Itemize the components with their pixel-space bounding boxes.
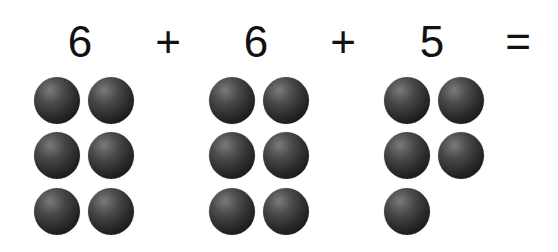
counting-ball [438, 77, 484, 124]
counting-ball [209, 77, 255, 124]
counting-ball [263, 188, 309, 235]
counting-ball [88, 132, 134, 179]
counting-ball [34, 77, 80, 124]
counting-ball [384, 188, 430, 235]
counting-ball [34, 188, 80, 235]
counting-ball [263, 77, 309, 124]
equals-sign: = [488, 16, 548, 68]
number-six: 6 [226, 16, 286, 68]
counting-ball [34, 132, 80, 179]
number-five: 5 [402, 16, 462, 68]
counting-ball [384, 77, 430, 124]
counting-ball [263, 132, 309, 179]
number-six: 6 [50, 16, 110, 68]
counting-ball [88, 77, 134, 124]
counting-ball [384, 132, 430, 179]
plus-sign: + [313, 16, 373, 68]
counting-ball [209, 132, 255, 179]
plus-sign: + [138, 16, 198, 68]
counting-ball [209, 188, 255, 235]
counting-ball [88, 188, 134, 235]
counting-ball [438, 132, 484, 179]
